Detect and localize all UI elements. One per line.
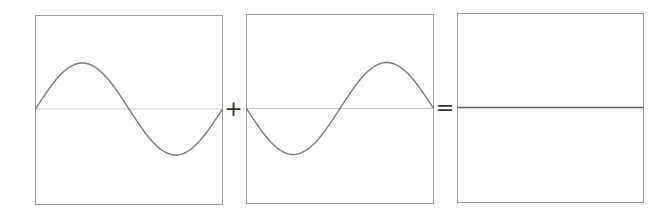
panel-wave-a	[36, 16, 223, 205]
equals-operator: =	[436, 95, 454, 120]
interference-diagram: + =	[0, 0, 672, 215]
panel-result	[458, 14, 644, 203]
panel-wave-b	[247, 15, 434, 204]
plus-operator: +	[224, 96, 242, 121]
